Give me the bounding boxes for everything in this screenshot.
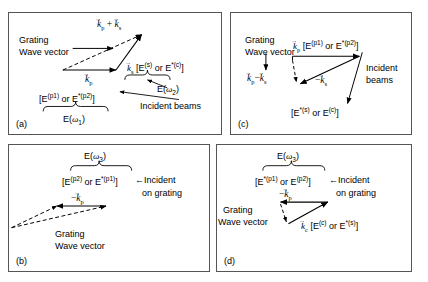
grating-label-a-line2: Wave vector [19, 47, 69, 58]
grating-label-d-line1: Grating [223, 205, 253, 216]
panel-d: E(ω3) [E*(p1) or E(p2)] ←Incident on gra… [216, 144, 412, 272]
incident-beams-label-a: Incident beams [140, 101, 201, 112]
vector-label-kp-plus-ks: kp + ks [97, 19, 121, 31]
brace-field-label-d: [E*(p1) or E(p2)] [255, 175, 311, 187]
grating-label-b-line2: Wave vector [55, 241, 105, 252]
omega1-label-a: E(ω1) [63, 114, 85, 126]
panel-tag-b: (b) [16, 256, 27, 266]
ks-field-label-a: ks [E(s) or E*(c)] [127, 61, 184, 75]
incident-label-b-line1: ←Incident [135, 175, 176, 186]
figure-container: Grating Wave vector kp + ks kp ks [E(s) … [0, 0, 428, 282]
minus-ks-label-c: −ks [315, 75, 327, 87]
grating-vector-label-c: kp−ks [247, 73, 267, 85]
grating-label-a-line1: Grating [19, 35, 49, 46]
panel-b-vectors [9, 145, 209, 271]
brace-field-label-b: [E(p2) or E*(p1)] [62, 175, 118, 187]
omega2-label-a: E(ω2) [157, 84, 179, 96]
omega3-label-b: E(ω3) [84, 151, 106, 163]
kc-field-label-d: kc [E(c) or E*(s)] [301, 219, 358, 233]
panel-a: Grating Wave vector kp + ks kp ks [E(s) … [8, 12, 222, 135]
incident-label-c-line1: Incident [366, 63, 398, 74]
grating-label-c-line2: Wave vector [245, 47, 295, 58]
incident-label-b-line2: on grating [142, 188, 182, 199]
vector-label-kp-a: kp [85, 74, 92, 86]
bottom-field-label-c: [E*(s) or E(c)] [291, 106, 339, 118]
panel-tag-a: (a) [16, 119, 27, 129]
brace-field-label-a: [E(p1) or E*(p2)] [39, 92, 95, 104]
panel-tag-d: (d) [224, 256, 235, 266]
panel-c: Grating Wave vector kp−ks kp [E(p1) or E… [230, 12, 412, 135]
panel-b: E(ω3) [E(p2) or E*(p1)] ←Incident on gra… [8, 144, 210, 272]
minus-kp-label-d: −kp [279, 189, 292, 201]
grating-label-b-line1: Grating [55, 229, 85, 240]
kp-field-label-c: kp [E(p1) or E*(p2)] [293, 39, 358, 53]
panel-a-vectors [9, 13, 221, 134]
minus-kp-label-b: −kp [71, 193, 84, 205]
incident-label-c-line2: beams [366, 75, 393, 86]
grating-label-c-line1: Grating [245, 35, 275, 46]
grating-label-d-line2: Wave vector [218, 217, 268, 228]
panel-tag-c: (c) [238, 119, 249, 129]
incident-label-d-line1: ←Incident [329, 175, 370, 186]
omega3-label-d: E(ω3) [277, 151, 299, 163]
incident-label-d-line2: on grating [336, 188, 376, 199]
